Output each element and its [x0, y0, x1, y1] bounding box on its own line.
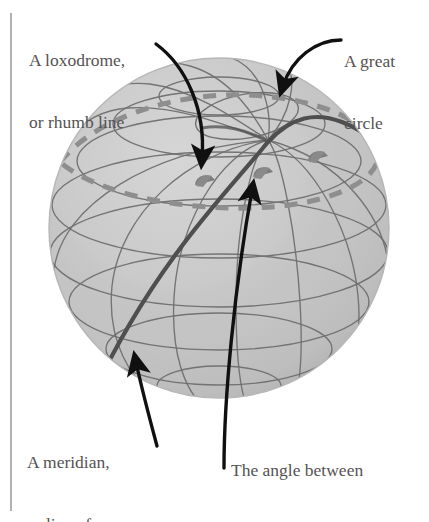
annotation-loxodrome-line2: or rhumb line — [29, 112, 125, 133]
annotation-angle-line1: The angle between — [231, 460, 383, 481]
annotation-meridian: A meridian, or line of longitude — [27, 411, 110, 522]
annotation-loxodrome: A loxodrome, or rhumb line — [29, 9, 125, 153]
annotation-meridian-line1: A meridian, — [27, 452, 110, 473]
annotation-great-circle-line2: circle — [344, 113, 395, 134]
annotation-angle: The angle between the rhumb line and eac… — [231, 419, 383, 522]
annotation-great-circle: A great circle — [344, 10, 395, 154]
annotation-great-circle-line1: A great — [344, 51, 395, 72]
annotation-loxodrome-line1: A loxodrome, — [29, 50, 125, 71]
annotation-meridian-line2: or line of — [27, 514, 110, 522]
